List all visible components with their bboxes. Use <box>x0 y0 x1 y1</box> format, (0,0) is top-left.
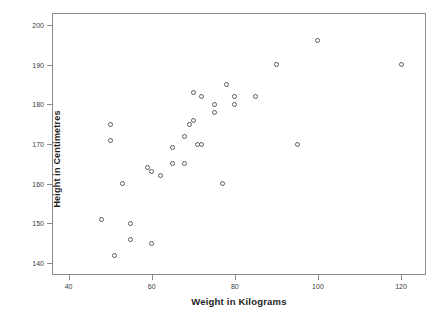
y-axis-title: Height in Centimetres <box>52 110 62 207</box>
x-tick-label: 120 <box>395 283 407 290</box>
x-tick-label: 80 <box>231 283 239 290</box>
x-tick-label: 100 <box>312 283 324 290</box>
y-tick-label: 200 <box>32 21 44 28</box>
y-tick-mark <box>47 263 52 264</box>
y-tick-label: 160 <box>32 180 44 187</box>
y-tick-label: 180 <box>32 101 44 108</box>
y-tick-mark <box>47 65 52 66</box>
scatter-plot-figure: 140150160170180190200 406080100120 Heigh… <box>0 0 447 318</box>
y-tick-label: 150 <box>32 220 44 227</box>
y-tick-label: 140 <box>32 260 44 267</box>
y-tick-mark <box>47 223 52 224</box>
x-tick-mark <box>69 275 70 280</box>
y-tick-mark <box>47 104 52 105</box>
x-axis-title: Weight in Kilograms <box>52 296 426 307</box>
x-tick-label: 40 <box>65 283 73 290</box>
y-tick-label: 170 <box>32 141 44 148</box>
x-tick-mark <box>152 275 153 280</box>
x-tick-mark <box>235 275 236 280</box>
x-tick-mark <box>401 275 402 280</box>
y-tick-mark <box>47 25 52 26</box>
x-tick-label: 60 <box>148 283 156 290</box>
plot-area-frame <box>52 13 426 275</box>
y-tick-label: 190 <box>32 61 44 68</box>
x-tick-mark <box>318 275 319 280</box>
